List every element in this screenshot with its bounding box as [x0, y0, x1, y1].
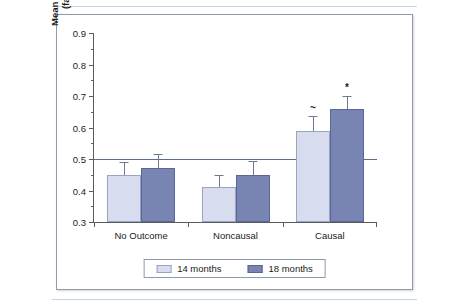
y-axis-tick — [89, 96, 94, 97]
bar — [141, 168, 175, 222]
error-bar-cap — [154, 154, 163, 155]
error-bar-cap — [342, 96, 351, 97]
bar — [330, 109, 364, 222]
top-divider-rule — [52, 6, 417, 7]
bar — [236, 175, 270, 222]
y-axis-minor-tick — [91, 206, 94, 207]
bottom-divider-rule — [52, 299, 417, 300]
error-bar-cap — [120, 162, 129, 163]
x-axis-category-label: Causal — [315, 230, 345, 241]
figure-page: Mean proportion of trials (familiar choi… — [0, 0, 469, 306]
y-axis-tick-label: 0.8 — [73, 59, 86, 70]
y-axis-minor-tick — [91, 112, 94, 113]
x-axis-tick — [94, 222, 95, 227]
x-axis-category-label: Noncausal — [213, 230, 258, 241]
x-axis-category-label: No Outcome — [114, 230, 167, 241]
y-axis-tick — [89, 65, 94, 66]
error-bar — [347, 96, 348, 109]
y-axis-tick-label: 0.6 — [73, 122, 86, 133]
legend-swatch-icon-14-months — [156, 265, 171, 273]
x-axis-tick — [188, 222, 189, 227]
y-axis-tick-label: 0.5 — [73, 154, 86, 165]
error-bar — [158, 154, 159, 168]
error-bar — [219, 175, 220, 188]
chart-legend: 14 months 18 months — [143, 259, 326, 278]
y-axis-tick-label: 0.7 — [73, 91, 86, 102]
error-bar — [124, 162, 125, 175]
y-axis-title: Mean proportion of trials (familiar choi… — [47, 0, 73, 55]
x-axis-tick — [376, 222, 377, 227]
legend-item-14-months[interactable]: 14 months — [156, 263, 221, 274]
error-bar — [253, 161, 254, 175]
error-bar-cap — [248, 161, 257, 162]
error-bar — [313, 116, 314, 130]
y-axis-tick — [89, 191, 94, 192]
error-bar-cap — [214, 175, 223, 176]
chart-figure-frame: Mean proportion of trials (familiar choi… — [56, 14, 413, 290]
y-axis-tick-label: 0.9 — [73, 28, 86, 39]
y-axis-tick — [89, 159, 94, 160]
y-axis-tick — [89, 33, 94, 34]
significance-marker: * — [345, 84, 349, 92]
y-axis-minor-tick — [91, 80, 94, 81]
y-axis-title-line1: Mean proportion of trials — [49, 0, 61, 26]
plot-area: 0.30.40.50.60.70.80.9No OutcomeNoncausal… — [93, 33, 377, 223]
bar — [296, 131, 330, 222]
error-bar-cap — [308, 116, 317, 117]
legend-item-18-months[interactable]: 18 months — [248, 263, 313, 274]
legend-label-18-months: 18 months — [269, 263, 313, 274]
y-axis-tick-label: 0.4 — [73, 185, 86, 196]
bar — [107, 175, 141, 222]
y-axis-minor-tick — [91, 175, 94, 176]
y-axis-minor-tick — [91, 143, 94, 144]
y-axis-title-line2: (familiar choices) — [60, 0, 72, 9]
x-axis-tick — [283, 222, 284, 227]
y-axis-tick-label: 0.3 — [73, 217, 86, 228]
legend-label-14-months: 14 months — [177, 263, 221, 274]
significance-marker: ~ — [310, 104, 316, 112]
y-axis-tick — [89, 128, 94, 129]
plot-inner: 0.30.40.50.60.70.80.9No OutcomeNoncausal… — [94, 33, 377, 222]
legend-swatch-icon-18-months — [248, 265, 263, 273]
y-axis-minor-tick — [91, 49, 94, 50]
bar — [202, 187, 236, 222]
